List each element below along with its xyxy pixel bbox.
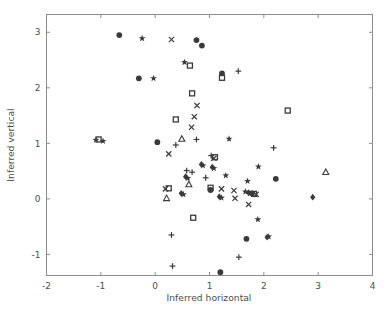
y-tick-label: 3 [35,27,41,37]
data-point-circle [273,176,279,182]
y-tick-label: 0 [35,194,41,204]
y-tick-label: -1 [32,250,41,260]
data-point-circle [217,269,223,275]
x-tick-label: 3 [315,281,321,291]
x-axis-label: Inferred horizontal [167,292,252,303]
data-point-circle [116,32,122,38]
figure-background [0,0,391,314]
y-tick-label: 2 [35,83,41,93]
data-point-circle [154,139,160,145]
y-axis-label: Inferred vertical [5,108,16,181]
data-point-circle [208,187,214,193]
data-point-circle [136,75,142,81]
data-point-circle [199,43,205,49]
data-point-circle [194,37,200,43]
x-tick-label: 2 [261,281,267,291]
y-tick-label: 1 [35,139,41,149]
x-tick-label: 0 [152,281,158,291]
scatter-plot-figure: -2-101234-10123 Inferred horizontal Infe… [0,0,391,314]
x-tick-label: 4 [370,281,376,291]
x-tick-label: -2 [42,281,51,291]
x-tick-label: -1 [96,281,105,291]
data-point-circle [244,236,250,242]
plot-canvas: -2-101234-10123 Inferred horizontal Infe… [0,0,391,314]
x-tick-label: 1 [207,281,213,291]
